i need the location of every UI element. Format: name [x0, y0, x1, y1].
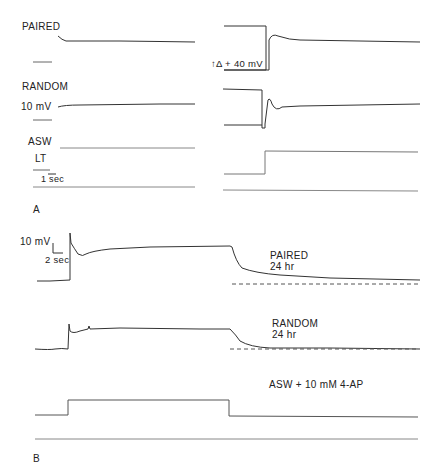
panel-b-random-time-label: 24 hr — [272, 329, 296, 340]
panel-b-letter: B — [33, 453, 40, 464]
panel-b-random-trace — [35, 324, 420, 350]
panel-b-random-label: RANDOM — [272, 318, 318, 329]
figure-traces — [0, 0, 440, 465]
panel-a-lt-step — [224, 151, 418, 174]
panel-b-paired-trace — [37, 233, 420, 281]
panel-a-lt-label: LT — [35, 153, 47, 164]
panel-a-letter: A — [33, 204, 40, 215]
panel-a-random-trace-left — [58, 104, 195, 107]
panel-b-paired-time-label: 24 hr — [270, 261, 294, 272]
panel-a-time-scale-label: 1 sec — [41, 174, 64, 185]
panel-b-voltage-scale-label: 10 mV — [20, 236, 50, 247]
panel-b-solution-step — [35, 400, 418, 417]
panel-a-bottom-line-right — [223, 190, 418, 191]
panel-b-scale-bar — [53, 243, 63, 253]
panel-a-delta-label: ↑Δ + 40 mV — [211, 58, 263, 69]
panel-a-paired-label: PAIRED — [22, 21, 60, 32]
panel-a-paired-trace-left — [58, 36, 195, 42]
panel-b-paired-label: PAIRED — [270, 250, 308, 261]
panel-a-random-label: RANDOM — [22, 81, 68, 92]
panel-a-voltage-scale-label: 10 mV — [21, 101, 51, 112]
panel-b-solution-label: ASW + 10 mM 4-AP — [269, 379, 364, 390]
panel-a-asw-label: ASW — [28, 136, 52, 147]
panel-a-random-trace-right — [223, 89, 420, 128]
panel-b-time-scale-label: 2 sec — [45, 254, 69, 265]
